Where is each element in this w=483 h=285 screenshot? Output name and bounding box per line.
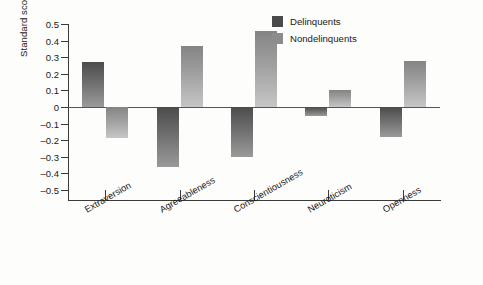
bar-agreeableness-delinquents: [157, 107, 179, 167]
legend-label-delinquents: Delinquents: [290, 16, 341, 27]
bar-openness-nondelinquents: [404, 61, 426, 107]
y-axis-tick-label: 0.1: [46, 85, 59, 96]
y-axis-tick: [61, 124, 68, 125]
y-axis-tick: [61, 74, 68, 75]
y-axis-tick: [61, 41, 68, 42]
y-axis-tick: [61, 90, 68, 91]
y-axis-tick: [61, 24, 68, 25]
y-axis-tick: [61, 173, 68, 174]
bar-extraversion-delinquents: [82, 62, 104, 107]
legend-label-nondelinquents: Nondelinquents: [290, 33, 357, 44]
y-axis-tick-label: –0.4: [41, 168, 60, 179]
y-axis-tick-label: 0.5: [46, 19, 59, 30]
bar-extraversion-nondelinquents: [106, 107, 128, 138]
y-axis-tick: [61, 157, 68, 158]
y-axis-tick: [61, 57, 68, 58]
bar-openness-delinquents: [380, 107, 402, 137]
legend-swatch-icon-nondelinquents: [272, 33, 283, 44]
y-axis-tick: [61, 107, 68, 108]
y-axis-tick-label: –0.1: [41, 118, 60, 129]
chart-container: Standard scores 0.50.40.30.20.10–0.1–0.2…: [0, 0, 483, 285]
bar-neuroticism-delinquents: [305, 107, 327, 116]
y-axis-tick-label: –0.2: [41, 135, 60, 146]
chart-legend: Delinquents Nondelinquents: [272, 16, 357, 50]
y-axis-tick: [61, 190, 68, 191]
y-axis-tick-label: –0.3: [41, 151, 60, 162]
y-axis-tick-label: –0.5: [41, 185, 60, 196]
plot-area: 0.50.40.30.20.10–0.1–0.2–0.3–0.4–0.5: [68, 24, 440, 190]
legend-item-delinquents: Delinquents: [272, 16, 357, 27]
bar-agreeableness-nondelinquents: [181, 46, 203, 107]
y-axis-tick-label: 0.3: [46, 52, 59, 63]
legend-swatch-icon-delinquents: [272, 16, 283, 27]
bar-conscientiousness-delinquents: [231, 107, 253, 157]
legend-item-nondelinquents: Nondelinquents: [272, 33, 357, 44]
y-axis-tick-label: 0.4: [46, 35, 59, 46]
y-axis-tick: [61, 140, 68, 141]
y-axis-title: Standard scores: [18, 0, 29, 57]
y-axis-tick-label: 0: [54, 102, 59, 113]
bar-neuroticism-nondelinquents: [329, 90, 351, 107]
y-axis-tick-label: 0.2: [46, 68, 59, 79]
